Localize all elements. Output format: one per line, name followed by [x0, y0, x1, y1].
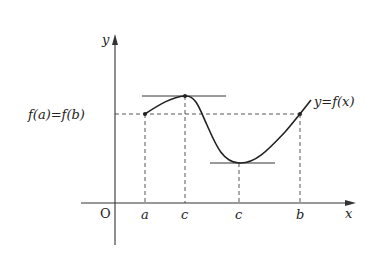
x-axis-label: x	[345, 206, 353, 221]
tick-label-a: a	[141, 207, 149, 222]
rolle-diagram: y x O a c c b f(a)=f(b) y=f(x)	[0, 0, 386, 276]
point-a	[143, 112, 147, 116]
y-axis-arrow-icon	[112, 34, 118, 45]
y-axis-label: y	[101, 32, 110, 47]
curve-label: y=f(x)	[313, 94, 355, 109]
tick-label-b: b	[296, 207, 304, 222]
origin-label: O	[100, 206, 111, 221]
function-curve	[145, 96, 311, 163]
tick-label-c1: c	[181, 207, 189, 222]
points	[143, 94, 302, 116]
level-label: f(a)=f(b)	[27, 107, 85, 122]
point-b	[298, 112, 302, 116]
guide-lines	[115, 96, 300, 203]
tick-label-c2: c	[235, 207, 243, 222]
point-max	[183, 94, 187, 98]
